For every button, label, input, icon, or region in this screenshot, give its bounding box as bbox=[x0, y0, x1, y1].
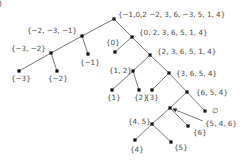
tree-edge bbox=[170, 92, 187, 108]
node-label: {−1} bbox=[80, 58, 100, 67]
node-label: ∅ bbox=[212, 106, 218, 115]
tree-edge bbox=[133, 71, 139, 90]
node-label: {6, 5, 4} bbox=[196, 88, 228, 97]
node-label: {3, 6, 5, 4} bbox=[176, 69, 217, 78]
tree-edge bbox=[82, 19, 114, 36]
node-label: {−2} bbox=[48, 74, 68, 83]
tree-node bbox=[86, 52, 89, 55]
tree-edge bbox=[135, 124, 152, 140]
node-label: {1} bbox=[107, 93, 121, 102]
node-label: {4, 5} bbox=[128, 117, 151, 126]
node-label: {0} bbox=[106, 38, 120, 47]
tree-node bbox=[131, 69, 134, 72]
tree-node bbox=[110, 88, 113, 91]
tree-node bbox=[130, 35, 133, 38]
tree-edge bbox=[152, 124, 171, 142]
node-label: {1, 2} bbox=[109, 66, 132, 75]
tree-node bbox=[185, 90, 188, 93]
tree-edge bbox=[170, 108, 188, 126]
tree-node bbox=[49, 51, 52, 54]
tree-node bbox=[169, 140, 172, 143]
tree-edge bbox=[51, 36, 82, 53]
tree-node bbox=[148, 53, 151, 56]
tree-edge bbox=[133, 55, 150, 71]
node-label: {6} bbox=[193, 128, 207, 137]
corner-mark: ) bbox=[0, 0, 2, 8]
tree-edge bbox=[150, 55, 169, 73]
node-label: {3} bbox=[145, 93, 159, 102]
tree-edge bbox=[51, 53, 57, 71]
tree-node bbox=[168, 106, 171, 109]
tree-node bbox=[133, 138, 136, 141]
tree-node bbox=[137, 88, 140, 91]
tree-labels: {−1,0,2 −2, 3, 6, −3, 5, 1, 4}{−2, −3, −… bbox=[11, 10, 228, 154]
tree-node bbox=[112, 17, 115, 20]
tree-node bbox=[150, 122, 153, 125]
tree-node bbox=[203, 109, 206, 112]
tree-node bbox=[186, 124, 189, 127]
node-label: {−1,0,2 −2, 3, 6, −3, 5, 1, 4} bbox=[118, 10, 225, 19]
tree-edge bbox=[82, 36, 88, 54]
node-label: {2, 3, 6, 5, 1, 4} bbox=[157, 47, 216, 56]
node-label: {0, 2, 3, 6, 5, 1, 4} bbox=[139, 28, 208, 37]
tree-edge bbox=[152, 108, 170, 124]
tree-diagram: ) {−1,0,2 −2, 3, 6, −3, 5, 1, 4}{−2, −3,… bbox=[0, 0, 241, 162]
tree-edge bbox=[19, 53, 51, 71]
node-label: {5} bbox=[174, 143, 188, 152]
tree-edge bbox=[114, 19, 132, 37]
tree-node bbox=[150, 88, 153, 91]
tree-node bbox=[113, 50, 116, 53]
tree-node bbox=[17, 69, 20, 72]
tree-edge bbox=[132, 37, 150, 55]
tree-edge bbox=[152, 73, 169, 90]
tree-node bbox=[80, 34, 83, 37]
tree-node bbox=[167, 71, 170, 74]
node-label: {−2, −3, −1} bbox=[27, 26, 77, 35]
node-label: {−3, −2} bbox=[11, 44, 46, 53]
tree-node bbox=[55, 69, 58, 72]
callout-label: {5, 4, 6} bbox=[205, 119, 237, 128]
node-label: {4} bbox=[130, 145, 144, 154]
node-label: {−3} bbox=[11, 74, 31, 83]
